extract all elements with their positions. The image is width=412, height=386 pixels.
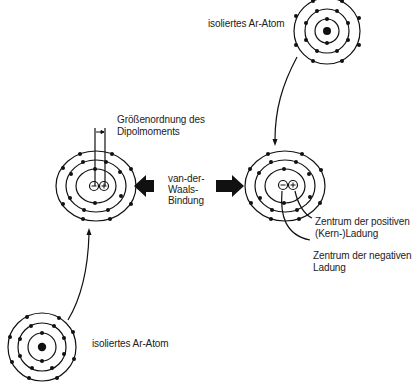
- label-isolated-atom-bottom: isoliertes Ar-Atom: [92, 338, 169, 350]
- transition-arrow-bottom: [68, 234, 89, 320]
- label-dipole-magnitude: Größenordnung des Dipolmoments: [117, 114, 205, 138]
- arrowhead-bottom-curve: [87, 228, 92, 235]
- vdw-arrow-left: [134, 175, 154, 197]
- arrowhead-top-curve: [273, 139, 278, 146]
- label-bond-line3: Bindung: [168, 195, 204, 206]
- polarized-atom-right: [245, 151, 325, 221]
- label-positive-center: Zentrum der positiven (Kern-)Ladung: [315, 216, 410, 240]
- label-positive-line1: Zentrum der positiven: [315, 216, 410, 228]
- label-dipole-line1: Größenordnung des: [117, 114, 205, 126]
- label-positive-line2: (Kern-)Ladung: [315, 228, 410, 240]
- label-bond-line2: Waals-: [168, 184, 204, 195]
- label-isolated-atom-top: isoliertes Ar-Atom: [208, 18, 285, 30]
- label-negative-line2: Ladung: [313, 262, 412, 274]
- label-negative-center: Zentrum der negativen Ladung: [313, 250, 412, 274]
- label-bond-line1: van-der-: [168, 173, 204, 184]
- label-negative-line1: Zentrum der negativen: [313, 250, 412, 262]
- vdw-arrow-right: [216, 175, 244, 197]
- transition-arrow-top: [275, 57, 297, 140]
- label-van-der-waals: van-der- Waals- Bindung: [168, 173, 204, 206]
- label-dipole-line2: Dipolmoments: [117, 126, 205, 138]
